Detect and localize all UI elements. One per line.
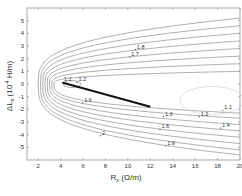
contour-label: 1.3 — [165, 111, 173, 117]
y-tick-label: 2 — [21, 56, 25, 62]
trajectory-segment — [63, 83, 150, 107]
x-tick-label: 10 — [125, 163, 132, 169]
contour-label: 1.2 — [201, 111, 209, 117]
y-tick-label: 4 — [21, 30, 25, 36]
x-tick-label: 18 — [214, 163, 221, 169]
x-tick-label: 16 — [192, 163, 199, 169]
plot-frame — [27, 8, 240, 160]
y-tick-label: 1 — [21, 68, 25, 74]
trajectory-line — [63, 83, 150, 107]
y-tick-label: -5 — [19, 144, 25, 150]
x-tick-label: 4 — [59, 163, 63, 169]
x-tick-label: 14 — [169, 163, 176, 169]
y-tick-label: -2 — [19, 106, 25, 112]
y-tick-label: -3 — [19, 119, 25, 125]
y-tick-label: 5 — [21, 18, 25, 24]
x-tick-label: 2 — [37, 163, 41, 169]
y-tick-label: 3 — [21, 43, 25, 49]
contour-line — [47, 49, 240, 131]
x-tick-label: 6 — [81, 163, 85, 169]
contour-label: 2 — [102, 130, 105, 136]
contour-label: 1.8 — [137, 44, 145, 50]
y-axis-label: ΔLx (10-4 H/m) — [4, 60, 15, 111]
contour-region — [180, 86, 242, 114]
contour-label: 1.4 — [222, 122, 230, 128]
x-tick-label: 12 — [147, 163, 154, 169]
y-tick-label: 0 — [21, 81, 25, 87]
contour-labels: 1.11.21.71.81.621.31.21.11.61.41.9 — [62, 44, 232, 147]
y-tick-label: -1 — [19, 94, 25, 100]
x-axis-label: Rx (Ω/m) — [111, 173, 142, 183]
x-tick-label: 8 — [104, 163, 108, 169]
y-tick-label: -4 — [19, 132, 25, 138]
contour-lines — [38, 18, 242, 155]
x-axis-ticks: 2468101214161820 — [37, 8, 242, 169]
contour-label: 1.1 — [64, 76, 72, 82]
contour-label: 1.6 — [84, 97, 92, 103]
contour-label: 1.9 — [167, 140, 175, 146]
contour-label: 1.7 — [131, 51, 139, 57]
contour-label: 1.2 — [79, 76, 87, 82]
x-tick-label: 20 — [237, 163, 242, 169]
contour-label: 1.6 — [162, 123, 170, 129]
contour-chart: 1.11.21.71.81.621.31.21.11.61.41.9 24681… — [0, 0, 242, 196]
contour-label: 1.1 — [224, 104, 232, 110]
